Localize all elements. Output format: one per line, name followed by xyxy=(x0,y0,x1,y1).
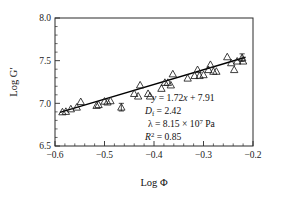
y-tick-label: 6.5 xyxy=(39,141,51,151)
annot-df-value: = 2.42 xyxy=(154,105,181,116)
annotation-equation: y = 1.72x + 7.91 xyxy=(151,92,215,103)
scatter-plot-svg: −0.6−0.5−0.4−0.3−0.2 6.57.07.58.0 Log Φ … xyxy=(0,0,281,199)
y-axis-title: Log G′ xyxy=(8,67,19,96)
x-tick-label: −0.5 xyxy=(96,150,113,160)
annot-lambda-unit: Pa xyxy=(203,118,216,129)
annotation-r2: R2 = 0.85 xyxy=(144,131,181,142)
x-axis-title: Log Φ xyxy=(140,177,168,188)
annotation-df: Df = 2.42 xyxy=(144,105,181,117)
annot-eq-tail: + 7.91 xyxy=(188,92,215,103)
annot-r2-value: = 0.85 xyxy=(154,131,181,142)
y-tick-label: 7.0 xyxy=(39,99,51,109)
annot-eq-rest: = 1.72 xyxy=(156,92,183,103)
annotation-lambda: λ = 8.15 × 107 Pa xyxy=(148,118,216,129)
x-tick-label: −0.3 xyxy=(195,150,212,160)
x-tick-label: −0.4 xyxy=(145,150,162,160)
x-tick-label: −0.2 xyxy=(244,150,261,160)
annot-df-symbol: D xyxy=(144,105,152,116)
x-tick-label: −0.6 xyxy=(46,150,63,160)
y-tick-label: 8.0 xyxy=(39,13,51,23)
annot-lambda-value: = 8.15 × 10 xyxy=(153,118,200,129)
y-tick-label: 7.5 xyxy=(39,56,51,66)
chart-figure: −0.6−0.5−0.4−0.3−0.2 6.57.07.58.0 Log Φ … xyxy=(0,0,281,199)
